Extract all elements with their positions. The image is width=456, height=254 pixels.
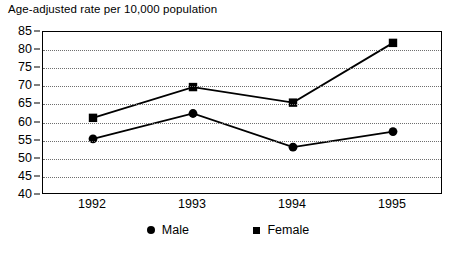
plot-area bbox=[42, 31, 442, 194]
gridline bbox=[43, 104, 441, 105]
data-point-marker-square bbox=[389, 39, 397, 47]
y-tick-mark bbox=[34, 103, 40, 104]
legend-label: Male bbox=[162, 224, 189, 237]
gridline bbox=[43, 177, 441, 178]
legend-entry-male: Male bbox=[147, 224, 189, 237]
data-point-marker-square bbox=[89, 114, 97, 122]
y-tick-mark bbox=[34, 175, 40, 176]
chart-legend: MaleFemale bbox=[0, 224, 456, 237]
legend-entry-female: Female bbox=[253, 224, 309, 237]
y-tick-mark bbox=[34, 194, 40, 195]
gridline bbox=[43, 68, 441, 69]
series-layer bbox=[43, 32, 443, 195]
series-line-female bbox=[93, 43, 393, 118]
y-tick-mark bbox=[34, 157, 40, 158]
y-tick-mark bbox=[34, 49, 40, 50]
data-point-marker-circle bbox=[89, 134, 98, 143]
y-tick-label: 55 bbox=[18, 133, 32, 146]
gridline bbox=[43, 50, 441, 51]
y-tick-label: 70 bbox=[18, 79, 32, 92]
y-tick-label: 50 bbox=[18, 152, 32, 165]
gridline bbox=[43, 86, 441, 87]
data-point-marker-circle bbox=[389, 127, 398, 136]
x-tick-label: 1993 bbox=[178, 198, 206, 211]
y-tick-label: 45 bbox=[18, 170, 32, 183]
chart-figure: Age-adjusted rate per 10,000 population … bbox=[0, 0, 456, 254]
y-tick-mark bbox=[34, 121, 40, 122]
data-point-marker-circle bbox=[189, 109, 198, 118]
y-axis: 40455055606570758085 bbox=[0, 31, 40, 194]
x-tick-label: 1992 bbox=[78, 198, 106, 211]
data-point-marker-square bbox=[289, 98, 297, 106]
gridline bbox=[43, 141, 441, 142]
data-point-marker-circle bbox=[289, 143, 298, 152]
y-tick-label: 40 bbox=[18, 188, 32, 201]
filled-square-marker bbox=[253, 227, 261, 235]
y-tick-mark bbox=[34, 139, 40, 140]
chart-title: Age-adjusted rate per 10,000 population bbox=[8, 3, 217, 15]
y-tick-label: 85 bbox=[18, 25, 32, 38]
gridline bbox=[43, 159, 441, 160]
y-tick-label: 80 bbox=[18, 43, 32, 56]
gridline bbox=[43, 123, 441, 124]
y-tick-label: 65 bbox=[18, 97, 32, 110]
y-tick-label: 60 bbox=[18, 115, 32, 128]
y-tick-mark bbox=[34, 85, 40, 86]
filled-circle-marker bbox=[147, 226, 155, 234]
y-tick-mark bbox=[34, 31, 40, 32]
x-tick-label: 1994 bbox=[278, 198, 306, 211]
y-tick-label: 75 bbox=[18, 61, 32, 74]
x-tick-label: 1995 bbox=[378, 198, 406, 211]
series-line-male bbox=[93, 114, 393, 148]
y-tick-mark bbox=[34, 67, 40, 68]
legend-label: Female bbox=[267, 224, 309, 237]
x-axis: 1992199319941995 bbox=[42, 198, 442, 218]
